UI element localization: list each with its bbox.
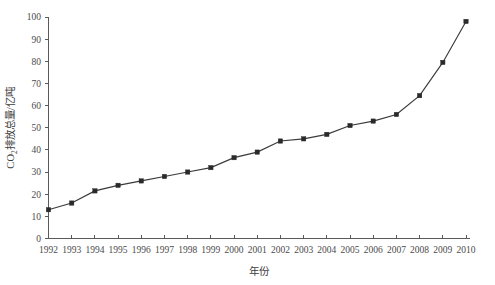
y-tick-label: 0	[36, 234, 41, 244]
x-tick-label: 2007	[387, 245, 406, 255]
x-tick-label: 2000	[225, 245, 244, 255]
x-tick-label: 1992	[39, 245, 58, 255]
x-tick-label: 2005	[341, 245, 360, 255]
y-axis-title-prefix: CO	[5, 154, 16, 169]
x-tick-label: 2009	[433, 245, 452, 255]
x-axis-title: 年份	[249, 265, 270, 277]
data-point-marker	[394, 112, 398, 116]
x-tick-label: 2010	[457, 245, 476, 255]
data-point-marker	[116, 183, 120, 187]
x-tick-label: 2004	[317, 245, 336, 255]
data-point-marker	[185, 170, 189, 174]
data-point-marker	[46, 208, 50, 212]
y-tick-label: 100	[27, 12, 42, 22]
data-point-marker	[441, 60, 445, 64]
data-point-marker	[232, 155, 236, 159]
chart-background	[0, 0, 495, 285]
y-tick-label: 30	[32, 167, 42, 177]
x-tick-label: 2006	[364, 245, 383, 255]
x-tick-label: 1997	[155, 245, 174, 255]
x-tick-label: 1993	[62, 245, 81, 255]
y-tick-label: 60	[32, 101, 42, 111]
data-point-marker	[93, 189, 97, 193]
x-tick-label: 1999	[201, 245, 220, 255]
data-point-marker	[325, 132, 329, 136]
data-point-marker	[371, 119, 375, 123]
data-point-marker	[139, 179, 143, 183]
data-point-marker	[162, 174, 166, 178]
data-point-marker	[209, 165, 213, 169]
data-point-marker	[69, 201, 73, 205]
x-tick-label: 1994	[85, 245, 104, 255]
data-point-marker	[417, 93, 421, 97]
data-point-marker	[348, 123, 352, 127]
data-point-marker	[278, 139, 282, 143]
data-point-marker	[464, 19, 468, 23]
x-tick-label: 2003	[294, 245, 313, 255]
y-tick-label: 20	[32, 190, 42, 200]
y-tick-label: 80	[32, 57, 42, 67]
x-tick-label: 1998	[178, 245, 197, 255]
co2-emissions-line-chart: 0102030405060708090100 19921993199419951…	[0, 0, 495, 285]
y-axis-title-suffix: 排放总量/亿吨	[4, 86, 16, 150]
y-tick-label: 40	[32, 145, 42, 155]
data-point-marker	[301, 137, 305, 141]
x-tick-label: 2008	[410, 245, 429, 255]
data-point-marker	[255, 150, 259, 154]
x-tick-label: 1995	[109, 245, 128, 255]
y-tick-label: 10	[32, 212, 42, 222]
x-tick-label: 2001	[248, 245, 267, 255]
y-tick-label: 70	[32, 79, 42, 89]
y-tick-label: 90	[32, 35, 42, 45]
x-tick-label: 2002	[271, 245, 290, 255]
x-tick-label: 1996	[132, 245, 151, 255]
y-tick-label: 50	[32, 123, 42, 133]
